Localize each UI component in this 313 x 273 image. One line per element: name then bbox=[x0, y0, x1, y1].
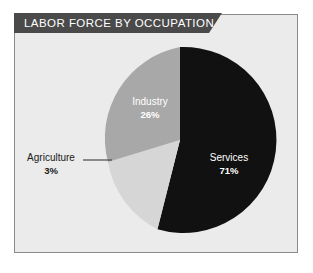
pie-label-services-value: 71% bbox=[194, 165, 264, 177]
pie-label-services: Services 71% bbox=[194, 152, 264, 176]
pie-label-agriculture-value: 3% bbox=[16, 165, 86, 177]
page-title: LABOR FORCE BY OCCUPATION bbox=[14, 17, 214, 29]
chart-title-banner: LABOR FORCE BY OCCUPATION bbox=[14, 13, 222, 33]
pie-chart-svg bbox=[0, 0, 313, 273]
pie-label-agriculture-name: Agriculture bbox=[16, 152, 86, 165]
pie-label-industry-name: Industry bbox=[112, 96, 188, 109]
pie-label-services-name: Services bbox=[194, 152, 264, 165]
pie-label-agriculture: Agriculture 3% bbox=[16, 152, 86, 176]
pie-label-industry: Industry 26% bbox=[112, 96, 188, 120]
pie-label-industry-value: 26% bbox=[112, 109, 188, 121]
pie-chart: Industry 26% Services 71% Agriculture 3% bbox=[0, 0, 313, 273]
